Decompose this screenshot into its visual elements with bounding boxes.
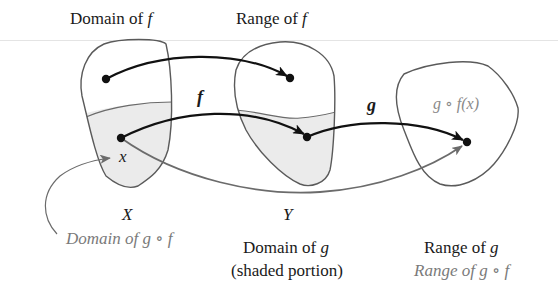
caption-domain-of-gof: Domain of g ∘ f: [66, 230, 173, 247]
title-domain-of-f-var: f: [147, 9, 152, 28]
function-label-g: g: [367, 96, 376, 114]
caption-shaded-portion: (shaded portion): [231, 262, 343, 279]
point-g-of-f-of-x: [463, 138, 471, 146]
title-range-of-f: Range of f: [236, 10, 307, 27]
set-Y-shape: [230, 42, 340, 200]
title-domain-of-f: Domain of f: [70, 10, 152, 27]
caption-range-of-g-text: Range of: [424, 238, 490, 257]
title-range-of-f-text: Range of: [236, 9, 302, 28]
point-x: [117, 134, 125, 142]
caption-domain-of-g-var: g: [320, 238, 329, 257]
point-top-domain: [102, 75, 110, 83]
caption-range-of-g: Range of g: [424, 239, 499, 256]
point-label-gof-x: g ∘ f(x): [433, 96, 479, 112]
domain-gof-pointer: [45, 158, 110, 234]
function-label-f: f: [197, 88, 203, 106]
set-label-Y: Y: [283, 206, 292, 223]
point-f-of-x: [303, 133, 311, 141]
caption-range-of-g-var: g: [490, 238, 499, 257]
caption-domain-of-g-text: Domain of: [243, 238, 320, 257]
f-arrow-top: [106, 57, 287, 79]
point-label-x: x: [119, 148, 127, 165]
caption-range-of-gof: Range of g ∘ f: [414, 262, 509, 279]
title-range-of-f-var: f: [302, 9, 307, 28]
composite-function-diagram: Domain of f Range of f f g x g ∘ f(x) X …: [0, 0, 558, 296]
caption-domain-of-g: Domain of g: [243, 239, 329, 256]
title-domain-of-f-text: Domain of: [70, 9, 147, 28]
set-Z-shape: [396, 62, 518, 186]
set-label-X: X: [122, 206, 132, 223]
point-top-range: [286, 74, 294, 82]
